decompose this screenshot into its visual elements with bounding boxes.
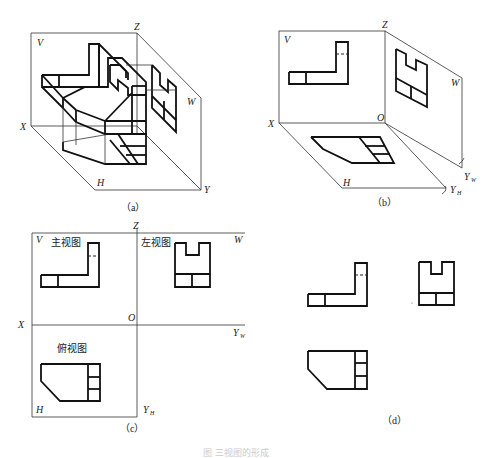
rotation-arrow-w (459, 158, 464, 164)
plane-h-label: H (342, 177, 351, 188)
panel-a-label: （a） (121, 202, 145, 213)
h-plane (279, 123, 446, 188)
top-view (308, 351, 367, 389)
axis-z-label: Z (133, 220, 139, 231)
svg-text:H: H (149, 410, 155, 416)
axis-x-label: X (267, 118, 275, 129)
panel-b-label: （b） (372, 197, 397, 208)
svg-text:W: W (240, 333, 246, 339)
h-projection (63, 134, 146, 164)
plane-w-label: W (451, 77, 461, 88)
axis-yw-label: Y (233, 327, 240, 338)
plane-v-label: V (284, 34, 292, 45)
plane-w-label: W (187, 96, 197, 107)
top-view (41, 364, 100, 401)
figure-caption: 图 三视图的形成 (203, 447, 269, 458)
axis-yh-label: Y (450, 184, 457, 195)
axis-z-label: Z (382, 19, 388, 30)
h-plane-edge (31, 126, 201, 190)
plane-h-label: H (96, 177, 105, 188)
svg-text:W: W (471, 177, 477, 183)
axis-y-label: Y (204, 184, 211, 195)
panel-b-unfolding: V Z W O X H Y W Y H （b） (267, 19, 477, 208)
v-plane (279, 31, 385, 123)
axis-yw-label: Y (464, 171, 471, 182)
front-view (41, 243, 99, 287)
origin-o-label: O (128, 312, 135, 323)
three-view-projection-figure: V Z W X H Y （a） V Z W O X H (0, 0, 491, 458)
axis-z-label: Z (134, 21, 140, 32)
front-view-title: 主视图 (51, 236, 81, 248)
origin-o-label: O (377, 112, 384, 123)
panel-a-isometric: V Z W X H Y （a） (19, 21, 211, 213)
panel-c-label: （c） (120, 423, 144, 434)
rotation-arrow-h (442, 186, 446, 194)
plane-h-label: H (35, 404, 44, 415)
axis-x-label: X (17, 319, 25, 330)
axis-yh-label: Y (143, 404, 150, 415)
v-projection (42, 44, 99, 87)
top-view-title: 俯视图 (57, 342, 87, 354)
panel-d-final-views: （d） (308, 262, 454, 426)
axis-x-label: X (19, 121, 27, 132)
plane-v-label: V (36, 234, 44, 245)
plane-w-label: W (234, 234, 244, 245)
svg-text:H: H (456, 190, 462, 196)
left-view-title: 左视图 (141, 236, 171, 248)
panel-c-flattened: 主视图 左视图 俯视图 V Z W O X Y W H Y H （c） (17, 220, 246, 434)
plane-v-label: V (37, 37, 45, 48)
front-view (308, 263, 367, 306)
panel-d-label: （d） (382, 415, 407, 426)
